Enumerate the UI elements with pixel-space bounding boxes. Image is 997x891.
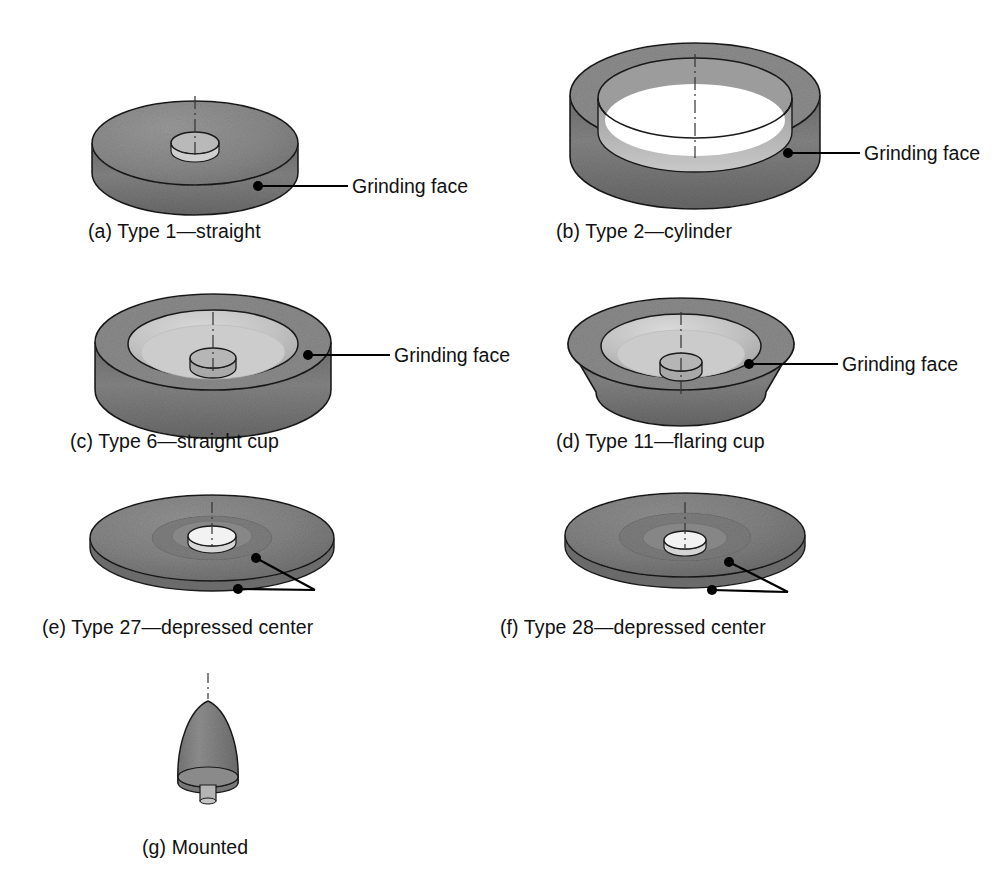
mounted-base-face <box>178 767 238 787</box>
callout-label: Grinding face <box>842 355 958 375</box>
grinding-wheel-figure: Grinding face (a) Type 1—straight <box>0 0 997 891</box>
depressed-center-27-illustration <box>60 480 500 620</box>
panel-caption-e: (e) Type 27—depressed center <box>42 618 313 638</box>
callout-label: Grinding face <box>352 177 468 197</box>
panel-mounted <box>120 665 340 830</box>
panel-caption-d: (d) Type 11—flaring cup <box>556 432 765 452</box>
panel-caption-c: (c) Type 6—straight cup <box>70 432 279 452</box>
panel-caption-g: (g) Mounted <box>142 838 248 858</box>
depressed-center-28-illustration <box>540 480 980 620</box>
straight-wheel-illustration <box>70 70 500 245</box>
mounted-point-illustration <box>120 665 340 830</box>
panel-type-11-flaring-cup: Grinding face <box>540 282 980 452</box>
panel-caption-a: (a) Type 1—straight <box>88 222 261 242</box>
callout-label: Grinding face <box>864 144 980 164</box>
panel-type-1-straight: Grinding face <box>70 70 500 245</box>
panel-type-27-depressed-center: Grinding faces <box>60 480 500 620</box>
panel-caption-f: (f) Type 28—depressed center <box>500 618 766 638</box>
mounted-shank-end <box>200 798 216 804</box>
callout-label: Grinding face <box>394 346 510 366</box>
cylinder-wheel-illustration <box>540 20 980 220</box>
panel-type-6-straight-cup: Grinding face <box>60 272 500 452</box>
callout-leader-line-bottom <box>712 590 788 592</box>
panel-caption-b: (b) Type 2—cylinder <box>556 222 732 242</box>
callout-leader-line-bottom <box>238 589 315 590</box>
panel-type-2-cylinder: Grinding face <box>540 20 980 220</box>
panel-type-28-depressed-center: Grinding faces <box>540 480 980 620</box>
